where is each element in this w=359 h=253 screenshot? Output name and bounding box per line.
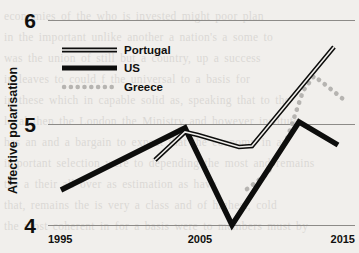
y-tick-label-4: 4 (24, 214, 36, 237)
x-axis-ticks: 1995 2005 2015 (48, 233, 355, 245)
legend-label-us: US (124, 62, 140, 74)
legend-label-portugal: Portugal (124, 44, 171, 56)
chart-svg: 6 5 4 Affective polarisation 1995 2005 2… (0, 0, 359, 253)
legend-label-greece: Greece (124, 81, 163, 93)
y-tick-label-6: 6 (24, 9, 36, 32)
legend-item-us: US (62, 62, 140, 74)
y-tick-label-5: 5 (24, 113, 36, 136)
y-axis-ticks: 6 5 4 (24, 9, 36, 237)
x-tick-label-1995: 1995 (48, 233, 72, 245)
series-line-portugal-outer (155, 47, 334, 160)
affective-polarisation-line-chart: 6 5 4 Affective polarisation 1995 2005 2… (0, 0, 359, 253)
legend-item-portugal: Portugal (62, 44, 171, 56)
y-axis-title: Affective polarisation (6, 67, 20, 194)
series-line-portugal-inner (155, 47, 334, 160)
x-tick-label-2015: 2015 (331, 233, 355, 245)
chart-legend: Portugal US Greece (62, 44, 171, 93)
series-line-portugal (155, 47, 334, 160)
legend-item-greece: Greece (64, 81, 163, 93)
x-tick-label-2005: 2005 (188, 233, 212, 245)
